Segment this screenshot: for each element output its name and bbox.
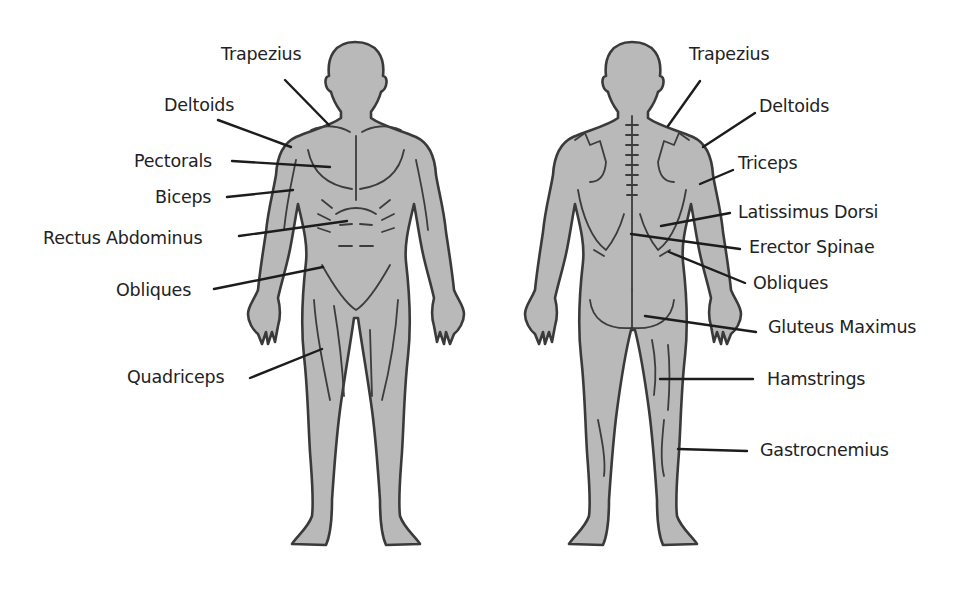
back-figure (525, 42, 741, 545)
front-label-deltoids: Deltoids (164, 95, 234, 115)
front-label-trapezius: Trapezius (221, 44, 301, 64)
front-label-biceps: Biceps (155, 187, 211, 207)
front-leader-line-deltoids (218, 120, 291, 147)
front-label-rectus-abdominus: Rectus Abdominus (43, 228, 202, 248)
back-label-trapezius: Trapezius (689, 44, 769, 64)
back-leader-line-deltoids (703, 113, 755, 147)
back-label-hamstrings: Hamstrings (767, 369, 865, 389)
front-label-pectorals: Pectorals (134, 151, 212, 171)
back-label-obliques: Obliques (753, 273, 828, 293)
back-body-silhouette (525, 42, 741, 545)
front-leader-line-trapezius (285, 80, 329, 125)
back-leader-line-gastrocnemius (678, 449, 747, 451)
front-label-quadriceps: Quadriceps (127, 367, 224, 387)
back-label-triceps: Triceps (738, 153, 797, 173)
back-label-gluteus-maximus: Gluteus Maximus (768, 317, 916, 337)
back-label-deltoids: Deltoids (759, 96, 829, 116)
back-leader-line-trapezius (668, 81, 700, 126)
front-body-silhouette (248, 42, 464, 545)
front-figure (248, 42, 464, 545)
back-label-latissimus-dorsi: Latissimus Dorsi (738, 202, 878, 222)
muscle-anatomy-diagram: TrapeziusDeltoidsPectoralsBicepsRectus A… (0, 0, 969, 591)
back-label-gastrocnemius: Gastrocnemius (760, 440, 889, 460)
back-label-erector-spinae: Erector Spinae (749, 237, 874, 257)
front-label-obliques: Obliques (116, 280, 191, 300)
